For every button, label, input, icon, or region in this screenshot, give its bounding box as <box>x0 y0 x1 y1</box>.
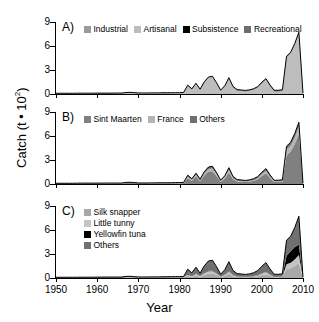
y-tick-label-wrap: 3 <box>19 66 50 74</box>
legend-entry-yellowfin-tuna: Yellowfin tuna <box>84 229 146 240</box>
legend-label: Artisanal <box>144 24 177 34</box>
legend-swatch-icon <box>190 116 197 123</box>
area-series-sint-maarten <box>56 134 303 184</box>
area-series-artisanal <box>56 33 303 94</box>
y-tick-a-0 <box>50 94 55 95</box>
legend-label: Subsistence <box>192 24 238 34</box>
x-tick-b-1990 <box>221 184 222 188</box>
y-tick-label-b-6: 6 <box>22 132 50 140</box>
x-tick-b-2000 <box>262 184 263 188</box>
x-tick-b-1950 <box>56 184 57 188</box>
y-tick-label-c-6: 6 <box>22 226 50 234</box>
y-tick-label-wrap: 3 <box>19 156 50 164</box>
x-tick-label-1980: 1980 <box>160 284 200 295</box>
y-tick-label-wrap: 6 <box>19 226 50 234</box>
x-tick-a-1980 <box>180 94 181 98</box>
x-tick-a-2010 <box>303 94 304 98</box>
panel-b-legend: Sint MaartenFranceOthers <box>84 114 231 124</box>
x-tick-b-1980 <box>180 184 181 188</box>
x-tick-c-1950 <box>56 278 57 282</box>
y-tick-label-wrap: 0 <box>19 274 50 282</box>
y-tick-label-wrap: 9 <box>19 18 50 26</box>
legend-entry-recreational: Recreational <box>244 24 301 34</box>
y-tick-label-wrap: 6 <box>19 132 50 140</box>
y-tick-label-wrap: 9 <box>19 202 50 210</box>
y-tick-label-wrap: 0 <box>19 180 50 188</box>
legend-swatch-icon <box>148 116 155 123</box>
x-tick-b-1970 <box>138 184 139 188</box>
y-tick-label-c-0: 0 <box>22 274 50 282</box>
panel-a-legend: IndustrialArtisanalSubsistenceRecreation… <box>84 24 308 34</box>
legend-swatch-icon <box>84 220 91 227</box>
y-tick-c-6 <box>50 230 55 231</box>
legend-swatch-icon <box>84 116 91 123</box>
y-tick-a-6 <box>50 46 55 47</box>
y-tick-label-a-6: 6 <box>22 42 50 50</box>
legend-label: Industrial <box>94 24 129 34</box>
legend-entry-sint-maarten: Sint Maarten <box>84 114 142 124</box>
x-tick-label-1990: 1990 <box>201 284 241 295</box>
panel-a-label: A) <box>62 20 74 34</box>
y-tick-b-6 <box>50 136 55 137</box>
legend-label: France <box>157 114 183 124</box>
x-tick-a-2000 <box>262 94 263 98</box>
panel-b-label: B) <box>62 110 74 124</box>
x-tick-label-2000: 2000 <box>242 284 282 295</box>
panel-c-label: C) <box>62 204 75 218</box>
y-tick-label-wrap: 6 <box>19 42 50 50</box>
x-tick-label-2010: 2010 <box>283 284 319 295</box>
legend-entry-little-tunny: Little tunny <box>84 218 146 229</box>
legend-swatch-icon <box>134 26 141 33</box>
panel-c-legend: Silk snapperLittle tunnyYellowfin tunaOt… <box>84 207 146 251</box>
legend-entry-france: France <box>148 114 184 124</box>
legend-label: Others <box>199 114 225 124</box>
figure-root: Catch (t • 102) A) IndustrialArtisanalSu… <box>0 0 319 322</box>
x-tick-a-1960 <box>97 94 98 98</box>
x-tick-c-1990 <box>221 278 222 282</box>
x-tick-c-1980 <box>180 278 181 282</box>
y-tick-b-3 <box>50 160 55 161</box>
x-tick-c-1970 <box>138 278 139 282</box>
legend-swatch-icon <box>183 26 190 33</box>
x-tick-c-2010 <box>303 278 304 282</box>
y-tick-a-3 <box>50 70 55 71</box>
legend-swatch-icon <box>84 242 91 249</box>
y-tick-a-9 <box>50 22 55 23</box>
legend-entry-industrial: Industrial <box>84 24 128 34</box>
legend-swatch-icon <box>84 209 91 216</box>
legend-label: Recreational <box>254 24 302 34</box>
x-tick-a-1970 <box>138 94 139 98</box>
x-tick-label-1970: 1970 <box>118 284 158 295</box>
x-tick-b-1960 <box>97 184 98 188</box>
y-tick-label-c-9: 9 <box>22 202 50 210</box>
y-tick-label-b-9: 9 <box>22 108 50 116</box>
x-tick-a-1950 <box>56 94 57 98</box>
legend-label: Little tunny <box>94 218 135 228</box>
legend-label: Silk snapper <box>94 207 141 217</box>
y-tick-c-3 <box>50 254 55 255</box>
legend-swatch-icon <box>244 26 251 33</box>
x-axis-label: Year <box>0 300 319 315</box>
y-tick-label-b-0: 0 <box>22 180 50 188</box>
y-tick-label-wrap: 3 <box>19 250 50 258</box>
y-tick-c-9 <box>50 206 55 207</box>
y-tick-label-a-3: 3 <box>22 66 50 74</box>
x-tick-label-1950: 1950 <box>36 284 76 295</box>
legend-entry-silk-snapper: Silk snapper <box>84 207 146 218</box>
y-tick-label-a-0: 0 <box>22 90 50 98</box>
x-tick-c-1960 <box>97 278 98 282</box>
y-tick-label-wrap: 9 <box>19 108 50 116</box>
y-tick-label-a-9: 9 <box>22 18 50 26</box>
legend-entry-others: Others <box>190 114 225 124</box>
legend-entry-artisanal: Artisanal <box>134 24 177 34</box>
x-tick-b-2010 <box>303 184 304 188</box>
y-tick-c-0 <box>50 278 55 279</box>
y-tick-label-b-3: 3 <box>22 156 50 164</box>
y-tick-label-wrap: 0 <box>19 90 50 98</box>
x-tick-label-1960: 1960 <box>77 284 117 295</box>
legend-label: Others <box>94 240 120 250</box>
x-axis-tick-labels: 1950196019701980199020002010 <box>0 284 319 296</box>
legend-swatch-icon <box>84 231 91 238</box>
legend-label: Sint Maarten <box>94 114 142 124</box>
legend-entry-others: Others <box>84 240 146 251</box>
